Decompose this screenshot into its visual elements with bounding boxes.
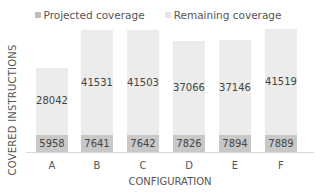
value-label-projected: 7641 xyxy=(81,138,113,149)
value-label-projected: 7826 xyxy=(173,138,205,149)
bar-segment-remaining: 41503 xyxy=(127,30,159,135)
legend-label-projected: Projected coverage xyxy=(44,9,145,21)
x-tick-label: D xyxy=(174,160,204,171)
y-axis-label: COVERED INSTRUCTIONS xyxy=(4,40,20,180)
bar-segment-projected: 7826 xyxy=(173,135,205,152)
legend-swatch-remaining xyxy=(165,12,171,18)
value-label-remaining: 41503 xyxy=(127,77,159,88)
value-label-remaining: 41519 xyxy=(265,76,297,87)
legend-item-remaining: Remaining coverage xyxy=(165,9,282,21)
x-tick-label: F xyxy=(266,160,296,171)
bar-segment-projected: 7889 xyxy=(265,135,297,152)
value-label-remaining: 37066 xyxy=(173,82,205,93)
x-axis-line xyxy=(26,152,314,153)
value-label-projected: 7889 xyxy=(265,138,297,149)
bar-b: 415317641 xyxy=(81,30,113,152)
bar-segment-projected: 7894 xyxy=(219,135,251,152)
value-label-projected: 5958 xyxy=(36,138,68,149)
bar-e: 371467894 xyxy=(219,40,251,152)
value-label-remaining: 41531 xyxy=(81,77,113,88)
bar-segment-projected: 7642 xyxy=(127,135,159,152)
chart-legend: Projected coverage Remaining coverage xyxy=(0,9,316,21)
plot-area: 2804259584153176414150376423706678263714… xyxy=(26,28,314,152)
x-axis-label: CONFIGURATION xyxy=(26,176,314,187)
x-tick-label: E xyxy=(220,160,250,171)
y-axis-label-text: COVERED INSTRUCTIONS xyxy=(7,45,18,176)
x-tick-label: A xyxy=(37,160,67,171)
bar-segment-projected: 7641 xyxy=(81,135,113,152)
legend-item-projected: Projected coverage xyxy=(35,9,145,21)
bar-segment-projected: 5958 xyxy=(36,135,68,152)
bar-segment-remaining: 41531 xyxy=(81,30,113,135)
value-label-projected: 7894 xyxy=(219,138,251,149)
bar-segment-remaining: 41519 xyxy=(265,29,297,135)
bar-d: 370667826 xyxy=(173,41,205,152)
bar-segment-remaining: 28042 xyxy=(36,68,68,135)
x-tick-label: B xyxy=(82,160,112,171)
value-label-remaining: 28042 xyxy=(36,95,68,106)
bar-segment-remaining: 37146 xyxy=(219,40,251,135)
value-label-remaining: 37146 xyxy=(219,82,251,93)
bar-c: 415037642 xyxy=(127,30,159,152)
x-tick-label: C xyxy=(128,160,158,171)
bar-a: 280425958 xyxy=(36,68,68,152)
legend-label-remaining: Remaining coverage xyxy=(174,9,282,21)
bar-segment-remaining: 37066 xyxy=(173,41,205,135)
bar-f: 415197889 xyxy=(265,29,297,152)
value-label-projected: 7642 xyxy=(127,138,159,149)
legend-swatch-projected xyxy=(35,12,41,18)
